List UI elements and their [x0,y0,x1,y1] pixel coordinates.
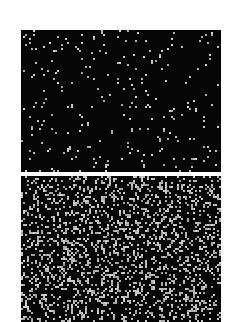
sparse-dot-field [21,30,221,172]
dense-random-dot-panel [21,176,221,322]
dense-dot-field [21,176,221,322]
sparse-random-dot-panel [21,30,221,172]
